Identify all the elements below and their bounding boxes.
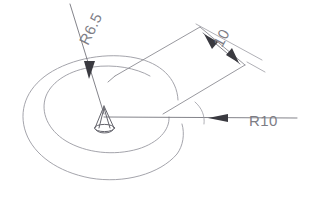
center-hub bbox=[95, 106, 115, 133]
r65-arrow-head bbox=[84, 61, 95, 79]
arm-edge-upper bbox=[115, 27, 200, 76]
outer-arc bbox=[23, 56, 183, 180]
drawing-svg: R6.5 10 R10 bbox=[0, 0, 311, 199]
technical-drawing-canvas: R6.5 10 R10 bbox=[0, 0, 311, 199]
dimension-arm-width: 10 bbox=[196, 24, 265, 72]
outer-arc-feature bbox=[23, 56, 183, 180]
arm-edge-lower bbox=[163, 65, 245, 114]
dimension-r10: R10 bbox=[104, 102, 297, 129]
width-ext-line-b bbox=[247, 62, 265, 72]
inner-arc-feature bbox=[44, 66, 169, 153]
r10-angle-ext bbox=[195, 102, 204, 124]
r65-label: R6.5 bbox=[75, 10, 105, 47]
dimension-r65: R6.5 bbox=[70, 4, 105, 114]
r10-label: R10 bbox=[249, 112, 278, 129]
inner-arc bbox=[44, 66, 169, 153]
r10-arrow-head bbox=[208, 114, 228, 122]
hub-base-ellipse bbox=[95, 124, 115, 131]
arm-inner-termination bbox=[108, 76, 115, 82]
